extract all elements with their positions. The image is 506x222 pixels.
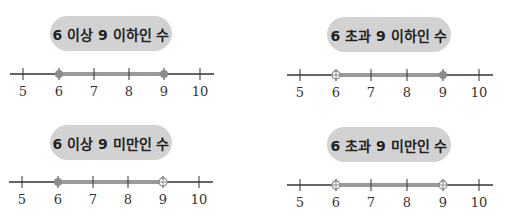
svg-text:10: 10 <box>191 192 208 207</box>
svg-text:9: 9 <box>439 195 447 210</box>
svg-text:7: 7 <box>89 192 97 207</box>
svg-text:9: 9 <box>439 85 447 100</box>
closed-endpoint-9 <box>439 71 447 79</box>
svg-text:10: 10 <box>471 195 488 210</box>
closed-endpoint-9 <box>160 70 168 78</box>
closed-endpoint-6 <box>54 178 62 186</box>
svg-text:5: 5 <box>19 84 27 99</box>
number-line: 5 6 7 8 9 10 <box>253 0 506 111</box>
svg-text:6: 6 <box>332 85 340 100</box>
number-line: 5 6 7 8 9 10 <box>0 111 253 222</box>
svg-text:8: 8 <box>125 84 133 99</box>
svg-text:5: 5 <box>18 192 26 207</box>
number-line-panel-closed-closed: 6 이상 9 이하인 수 5 6 7 8 9 10 <box>0 0 253 111</box>
svg-text:10: 10 <box>471 85 488 100</box>
svg-text:7: 7 <box>367 85 375 100</box>
number-line: 5 6 7 8 9 10 <box>0 0 253 111</box>
number-line-panel-closed-open: 6 이상 9 미만인 수 5 6 7 8 9 10 <box>0 111 253 222</box>
svg-text:7: 7 <box>367 195 375 210</box>
svg-text:10: 10 <box>192 84 209 99</box>
svg-text:9: 9 <box>159 192 167 207</box>
svg-text:6: 6 <box>54 192 62 207</box>
number-line: 5 6 7 8 9 10 <box>253 111 506 222</box>
number-line-panel-open-open: 6 초과 9 미만인 수 5 6 7 8 9 10 <box>253 111 506 222</box>
svg-text:5: 5 <box>296 85 304 100</box>
svg-text:8: 8 <box>124 192 132 207</box>
number-line-panel-open-closed: 6 초과 9 이하인 수 5 6 7 8 9 10 <box>253 0 506 111</box>
svg-text:7: 7 <box>90 84 98 99</box>
closed-endpoint-6 <box>55 70 63 78</box>
svg-text:8: 8 <box>403 195 411 210</box>
svg-text:8: 8 <box>403 85 411 100</box>
svg-text:6: 6 <box>55 84 63 99</box>
svg-text:5: 5 <box>296 195 304 210</box>
svg-text:6: 6 <box>332 195 340 210</box>
svg-text:9: 9 <box>160 84 168 99</box>
